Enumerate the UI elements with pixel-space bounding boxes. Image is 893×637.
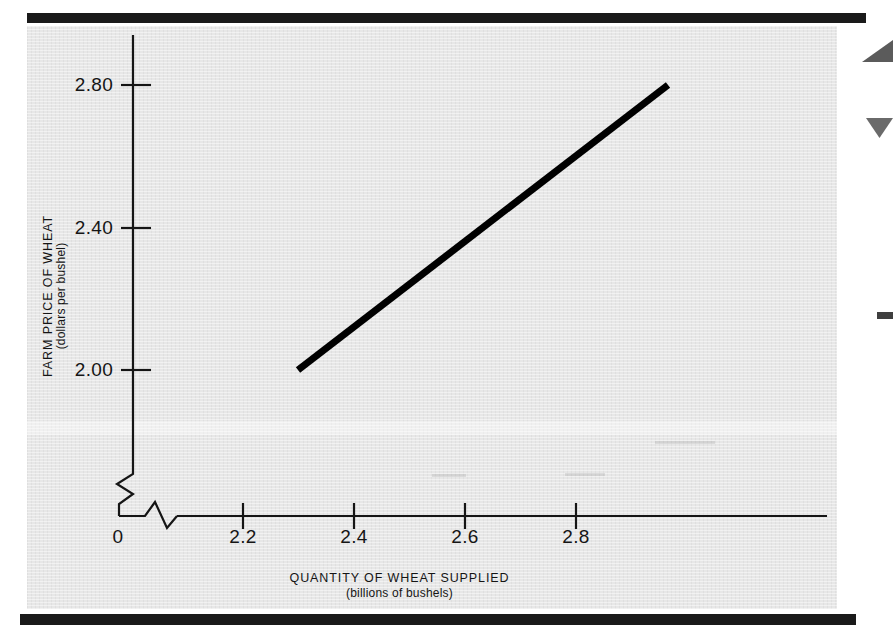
x-axis-title-subtitle: (billions of bushels) [27, 586, 772, 600]
bottom-rule-bar [20, 614, 856, 625]
supply-curve-chart: 2.80 2.40 2.00 0 2.2 2.4 2.6 2.8 FARM PR… [27, 26, 837, 609]
y-axis-title: FARM PRICE OF WHEAT (dollars per bushel) [41, 176, 69, 416]
y-axis-break-mark [117, 464, 133, 516]
margin-ink-mark [862, 40, 893, 62]
margin-ink-mark [866, 118, 893, 138]
x-tick-label-2-6: 2.6 [451, 526, 478, 548]
chart-vector-layer [27, 26, 837, 609]
margin-ink-mark [877, 312, 893, 319]
y-axis-title-main: FARM PRICE OF WHEAT [41, 176, 55, 416]
y-axis-title-subtitle: (dollars per bushel) [55, 176, 69, 416]
supply-curve-line [298, 85, 668, 370]
x-tick-label-2-8: 2.8 [562, 526, 589, 548]
x-axis-title: QUANTITY OF WHEAT SUPPLIED (billions of … [27, 571, 772, 600]
figure-page: 2.80 2.40 2.00 0 2.2 2.4 2.6 2.8 FARM PR… [0, 0, 893, 637]
origin-label-zero: 0 [113, 526, 124, 548]
x-tick-label-2-4: 2.4 [340, 526, 367, 548]
top-rule-bar [27, 13, 866, 23]
x-tick-label-2-2: 2.2 [229, 526, 256, 548]
x-axis-title-main: QUANTITY OF WHEAT SUPPLIED [27, 571, 772, 586]
y-tick-label-2-80: 2.80 [35, 74, 113, 96]
chart-panel: 2.80 2.40 2.00 0 2.2 2.4 2.6 2.8 FARM PR… [27, 26, 837, 609]
x-axis-break-mark [119, 502, 177, 528]
